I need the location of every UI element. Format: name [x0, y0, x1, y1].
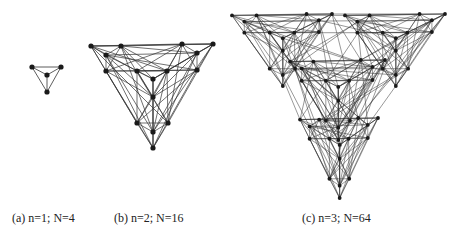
node	[317, 118, 321, 122]
node	[281, 73, 285, 77]
node	[430, 18, 434, 22]
node	[179, 41, 184, 46]
edge	[338, 20, 432, 87]
edge	[91, 46, 168, 123]
node	[381, 31, 385, 35]
node	[194, 50, 199, 55]
node	[58, 64, 63, 69]
node	[371, 78, 375, 82]
node	[376, 116, 380, 120]
node	[165, 120, 170, 125]
node	[300, 79, 304, 83]
node	[330, 12, 334, 16]
node	[103, 68, 108, 73]
node	[324, 119, 328, 123]
node	[150, 129, 155, 134]
node	[317, 18, 321, 22]
node	[359, 58, 363, 62]
node	[29, 64, 34, 69]
node	[150, 145, 155, 150]
node	[394, 49, 398, 53]
node	[164, 68, 169, 73]
node	[383, 58, 387, 62]
node	[255, 13, 259, 17]
node	[394, 84, 398, 88]
node	[406, 67, 410, 71]
graph-n3	[230, 12, 447, 200]
edge	[167, 71, 168, 123]
node	[366, 136, 370, 140]
node	[293, 67, 297, 71]
node	[338, 196, 342, 200]
edge	[232, 15, 295, 68]
node	[347, 79, 351, 83]
node	[338, 184, 342, 188]
node	[288, 60, 292, 64]
node	[430, 30, 434, 34]
node	[230, 13, 234, 17]
edge	[106, 71, 153, 148]
node	[305, 12, 309, 16]
node	[368, 13, 372, 17]
node	[324, 79, 328, 83]
node	[308, 137, 312, 141]
node	[347, 177, 351, 181]
node	[118, 43, 123, 48]
node	[418, 12, 422, 16]
node	[338, 143, 342, 147]
node	[150, 94, 155, 99]
node	[308, 125, 312, 129]
caption-c: (c) n=3; N=64	[302, 211, 371, 226]
node	[242, 31, 246, 35]
edge	[407, 33, 408, 69]
node	[88, 43, 93, 48]
node	[281, 49, 285, 53]
node	[366, 123, 370, 127]
node	[311, 60, 315, 64]
edge	[340, 125, 368, 186]
edge	[349, 139, 350, 179]
node	[281, 36, 285, 40]
edge	[349, 81, 350, 121]
node	[336, 85, 340, 89]
node	[268, 31, 272, 35]
node	[300, 67, 304, 71]
node	[394, 73, 398, 77]
node	[348, 119, 352, 123]
node	[336, 126, 340, 130]
node	[443, 12, 447, 16]
node	[194, 67, 199, 72]
node	[134, 68, 139, 73]
node	[242, 20, 246, 24]
node	[343, 13, 347, 17]
edge	[340, 20, 432, 145]
node	[150, 76, 155, 81]
node	[347, 137, 351, 141]
node	[44, 72, 49, 77]
node	[336, 138, 340, 142]
edge	[310, 139, 340, 198]
edge	[290, 62, 350, 121]
edge	[300, 120, 349, 179]
edge	[153, 53, 197, 132]
graph-n1	[29, 64, 63, 94]
node	[394, 36, 398, 40]
node	[371, 65, 375, 69]
node	[338, 157, 342, 161]
node	[355, 20, 359, 24]
node	[356, 116, 360, 120]
caption-a: (a) n=1; N=4	[12, 211, 75, 226]
node	[103, 52, 108, 57]
caption-b: (b) n=2; N=16	[114, 211, 184, 226]
node	[298, 118, 302, 122]
node	[268, 67, 272, 71]
diagram-canvas	[0, 0, 459, 243]
edge	[283, 20, 319, 75]
node	[355, 31, 359, 35]
node	[292, 31, 296, 35]
node	[328, 137, 332, 141]
node	[336, 99, 340, 103]
node	[134, 120, 139, 125]
edge	[244, 33, 283, 86]
node	[44, 89, 49, 94]
